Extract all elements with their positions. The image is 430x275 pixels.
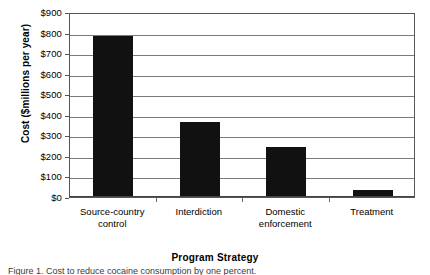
y-axis-tick-label: $400 (8, 110, 62, 121)
y-axis-tick-label: $200 (8, 151, 62, 162)
figure-caption: Figure 1. Cost to reduce cocaine consump… (8, 266, 428, 275)
y-axis-tick-label: $500 (8, 89, 62, 100)
x-axis-tick-mark (242, 198, 243, 202)
x-axis-category-label: Treatment (329, 206, 416, 218)
y-axis-tick-label: $600 (8, 69, 62, 80)
y-axis-tick-label: $300 (8, 130, 62, 141)
x-axis-category-label: Source-country control (69, 206, 156, 229)
axis-baseline (70, 196, 414, 197)
y-axis-tick-label: $800 (8, 28, 62, 39)
bar (180, 122, 220, 197)
x-axis-tick-mark (329, 198, 330, 202)
y-axis-tick-mark (65, 198, 69, 199)
bar (93, 36, 133, 197)
x-axis-title: Program Strategy (0, 252, 430, 263)
x-axis-category-label: Interdiction (156, 206, 243, 218)
y-axis-tick-label: $900 (8, 7, 62, 18)
x-axis-category-label: Domestic enforcement (242, 206, 329, 229)
y-axis-tick-label: $0 (8, 192, 62, 203)
y-axis-tick-label: $100 (8, 171, 62, 182)
bar (266, 147, 306, 197)
x-axis-tick-mark (156, 198, 157, 202)
plot-area (69, 13, 415, 198)
figure-bar-chart: Cost ($millions per year) $0$100$200$300… (0, 0, 430, 275)
y-axis-tick-label: $700 (8, 48, 62, 59)
